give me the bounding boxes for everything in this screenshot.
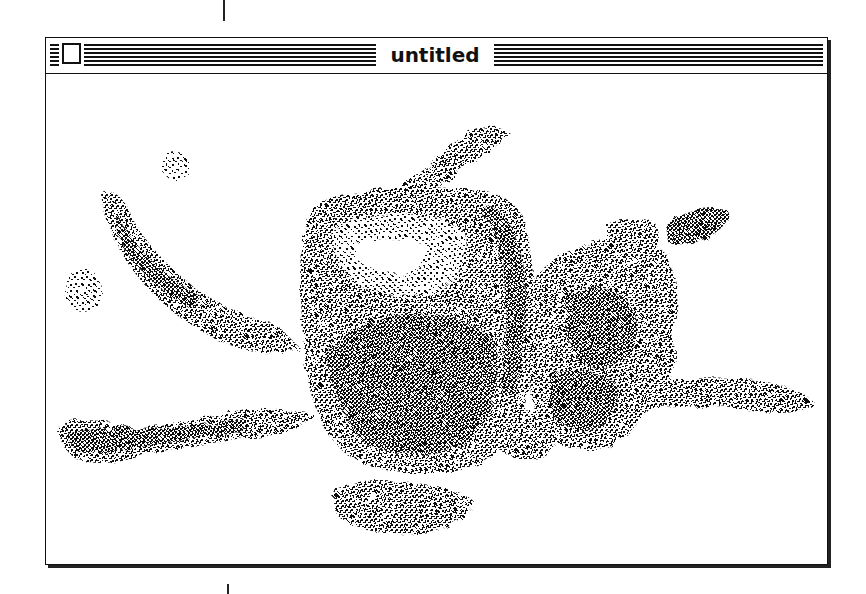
window-title: untitled (379, 41, 491, 69)
document-window: untitled (45, 37, 828, 565)
title-bar-stripes-left (50, 44, 376, 66)
dithered-image (46, 74, 827, 564)
speck (162, 152, 190, 180)
crop-mark-top (223, 0, 225, 21)
title-bar[interactable]: untitled (46, 38, 827, 74)
close-box-icon[interactable] (62, 43, 81, 64)
image-canvas (46, 74, 827, 564)
title-bar-stripes-right (494, 44, 823, 66)
crop-mark-bottom (227, 584, 229, 594)
